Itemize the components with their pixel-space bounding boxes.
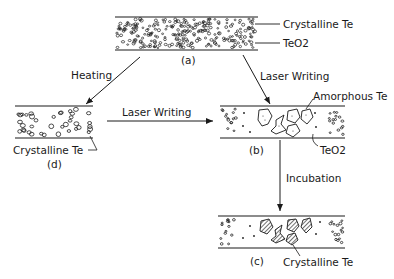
heating-label: Heating	[71, 69, 112, 81]
panel-a-film	[115, 17, 280, 50]
panel-a-teo2-label: TeO2	[283, 37, 309, 49]
incubation-label: Incubation	[286, 172, 341, 184]
panel-a-id: (a)	[181, 54, 196, 66]
panel-c-crystalline-te-label: Crystalline Te	[283, 256, 353, 268]
panel-c-id: (c)	[250, 255, 264, 267]
panel-b-film	[220, 99, 345, 146]
panel-c-film	[218, 216, 345, 256]
laser-writing-label-d-b: Laser Writing	[122, 106, 191, 118]
panel-d-crystalline-te-label: Crystalline Te	[13, 144, 83, 156]
panel-d-id: (d)	[47, 158, 62, 170]
laser-writing-label-a-b: Laser Writing	[260, 70, 329, 82]
panel-b-id: (b)	[249, 144, 264, 156]
phase-change-diagram	[0, 0, 394, 279]
panel-b-amorphous-te-label: Amorphous Te	[313, 90, 387, 102]
panel-a-crystalline-te-label: Crystalline Te	[283, 18, 353, 30]
panel-b-teo2-label: TeO2	[320, 144, 346, 156]
